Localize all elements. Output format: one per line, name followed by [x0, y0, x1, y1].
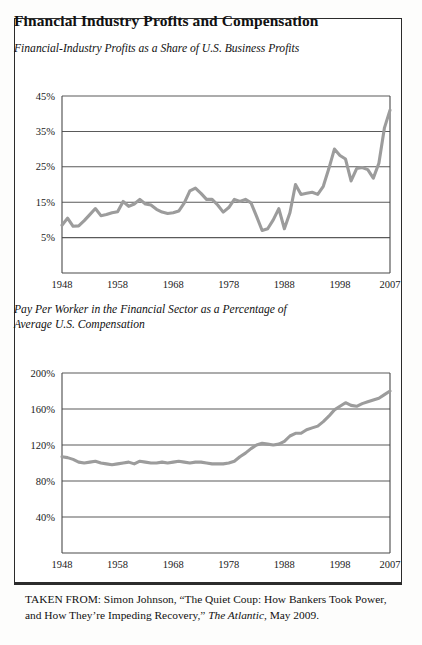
chart-2-subtitle-line2: Average U.S. Compensation: [14, 317, 287, 332]
source-divider: [14, 583, 402, 585]
x-axis-tick-label: 1968: [163, 559, 184, 570]
chart-2-subtitle-line1: Pay Per Worker in the Financial Sector a…: [14, 302, 287, 317]
y-axis-tick-label: 200%: [31, 368, 56, 379]
source-prefix: TAKEN FROM:: [25, 593, 104, 605]
x-axis-tick-label: 1958: [107, 279, 128, 290]
x-axis-tick-label: 1958: [107, 559, 128, 570]
chart-1-svg: 5%15%25%35%45%19481958196819781988199820…: [0, 70, 422, 295]
x-axis-tick-label: 1948: [52, 559, 73, 570]
x-axis-tick-label: 1998: [329, 279, 350, 290]
y-axis-tick-label: 5%: [41, 232, 55, 243]
chart-series-line: [62, 391, 390, 465]
x-axis-tick-label: 1978: [218, 279, 239, 290]
page-title: Financial Industry Profits and Compensat…: [14, 12, 319, 30]
x-axis-tick-label: 1998: [329, 559, 350, 570]
x-axis-tick-label: 1988: [274, 559, 295, 570]
y-axis-tick-label: 80%: [36, 476, 56, 487]
x-axis-tick-label: 1968: [163, 279, 184, 290]
y-axis-tick-label: 40%: [36, 512, 56, 523]
chart-series-line: [62, 110, 390, 230]
x-axis-tick-label: 1948: [52, 279, 73, 290]
chart-1: 5%15%25%35%45%19481958196819781988199820…: [0, 70, 422, 295]
x-axis-tick-label: 1978: [218, 559, 239, 570]
page-container: Financial Industry Profits and Compensat…: [0, 0, 422, 645]
y-axis-tick-label: 160%: [31, 404, 56, 415]
chart-2: 40%80%120%160%200%1948195819681978198819…: [0, 345, 422, 575]
source-publication: The Atlantic: [208, 609, 264, 621]
chart-2-subtitle: Pay Per Worker in the Financial Sector a…: [14, 302, 287, 333]
y-axis-tick-label: 45%: [36, 91, 56, 102]
y-axis-tick-label: 25%: [36, 161, 56, 172]
x-axis-tick-label: 2007: [380, 559, 401, 570]
x-axis-tick-label: 2007: [380, 279, 401, 290]
y-axis-tick-label: 15%: [36, 197, 56, 208]
source-citation: TAKEN FROM: Simon Johnson, “The Quiet Co…: [25, 592, 395, 623]
y-axis-tick-label: 35%: [36, 126, 56, 137]
source-author: Simon Johnson,: [104, 593, 180, 605]
chart-1-subtitle: Financial-Industry Profits as a Share of…: [14, 41, 299, 56]
source-date: , May 2009.: [264, 609, 319, 621]
chart-2-svg: 40%80%120%160%200%1948195819681978198819…: [0, 345, 422, 575]
y-axis-tick-label: 120%: [31, 440, 56, 451]
x-axis-tick-label: 1988: [274, 279, 295, 290]
